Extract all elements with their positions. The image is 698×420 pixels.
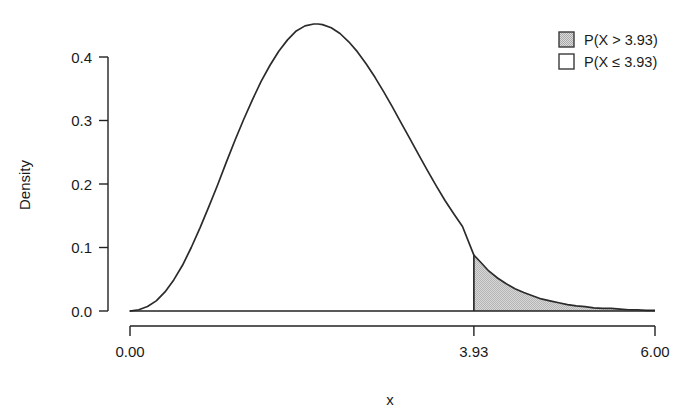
y-tick-label: 0.3	[71, 112, 92, 129]
axes-group	[99, 57, 655, 336]
tick-labels-group: 0.00.10.20.30.40.003.936.00	[71, 49, 669, 361]
x-axis-title: x	[386, 391, 394, 408]
x-tick-label: 0.00	[115, 343, 144, 360]
y-tick-label: 0.0	[71, 303, 92, 320]
legend-label-unshaded: P(X ≤ 3.93)	[584, 54, 657, 70]
legend-label-shaded: P(X > 3.93)	[584, 32, 658, 48]
y-tick-label: 0.2	[71, 176, 92, 193]
x-tick-label: 3.93	[459, 343, 488, 360]
legend-swatch-unshaded	[559, 54, 574, 69]
density-plot-figure: 0.00.10.20.30.40.003.936.00 Density x P(…	[0, 0, 698, 420]
y-axis-title: Density	[16, 159, 33, 210]
chart-legend: P(X > 3.93) P(X ≤ 3.93)	[559, 32, 658, 70]
legend-swatch-shaded	[559, 32, 574, 47]
shaded-tail-region	[474, 255, 655, 311]
y-tick-label: 0.1	[71, 239, 92, 256]
density-curve	[130, 24, 474, 311]
x-tick-label: 6.00	[640, 343, 669, 360]
plot-geometry	[130, 24, 655, 311]
y-tick-label: 0.4	[71, 49, 92, 66]
chart-canvas: 0.00.10.20.30.40.003.936.00 Density x P(…	[0, 0, 698, 420]
